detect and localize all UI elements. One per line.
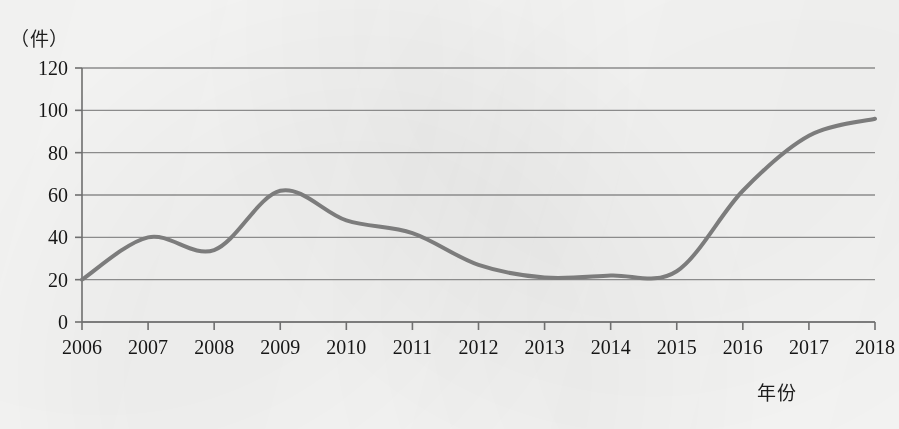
chart-plot-area: 020406080100120 200620072008200920102011… [0,0,899,429]
y-axis-tick-labels: 020406080100120 [38,57,68,333]
x-axis-tick-labels: 2006200720082009201020112012201320142015… [62,336,895,358]
data-series-line [82,119,875,280]
svg-text:2012: 2012 [459,336,499,358]
y-axis-unit-label: （件） [10,24,69,51]
svg-text:40: 40 [48,226,68,248]
svg-text:2007: 2007 [128,336,168,358]
svg-text:2010: 2010 [326,336,366,358]
x-axis-title: 年份 [757,378,797,405]
svg-text:2018: 2018 [855,336,895,358]
line-chart: （件） 年份 020406080100120 20062007200820092… [0,0,899,429]
svg-text:2013: 2013 [525,336,565,358]
svg-text:60: 60 [48,184,68,206]
svg-text:20: 20 [48,269,68,291]
svg-text:2009: 2009 [260,336,300,358]
svg-text:2016: 2016 [723,336,763,358]
svg-text:120: 120 [38,57,68,79]
svg-text:2008: 2008 [194,336,234,358]
svg-text:2014: 2014 [591,336,631,358]
svg-text:100: 100 [38,99,68,121]
x-axis-ticks [82,322,875,330]
grid-lines [82,68,875,322]
svg-text:2006: 2006 [62,336,102,358]
svg-text:0: 0 [58,311,68,333]
y-axis-ticks [75,68,82,322]
svg-text:2015: 2015 [657,336,697,358]
svg-text:80: 80 [48,142,68,164]
svg-text:2011: 2011 [393,336,432,358]
svg-text:2017: 2017 [789,336,829,358]
